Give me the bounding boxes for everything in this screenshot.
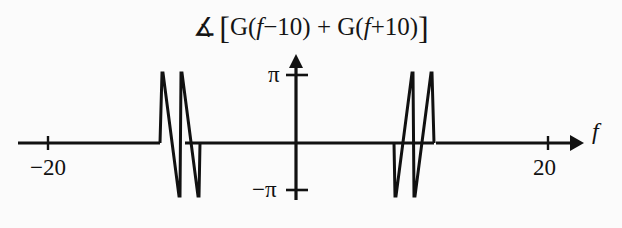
sawtooth-cluster-left [160, 73, 200, 196]
title-term-left: G( [230, 13, 256, 40]
x-axis-label: f [592, 119, 599, 143]
title-offset-left: −10) [263, 13, 310, 40]
title-offset-right: +10) [371, 13, 418, 40]
x-tick-label-20: 20 [533, 156, 556, 179]
sawtooth-cluster-right [394, 73, 434, 196]
x-axis [18, 135, 584, 151]
title-plus: + [311, 13, 338, 40]
title-term-right: G( [337, 13, 363, 40]
axis-tick-marks [48, 75, 548, 190]
y-tick-label-neg-pi: −π [252, 178, 277, 201]
title-var-right: f [364, 13, 371, 40]
angle-symbol-icon: ∡ [193, 13, 216, 42]
phase-spectrum-figure: ∡[G(f−10) + G(f+10)] −20 20 f π −π [0, 0, 622, 228]
plot-title: ∡[G(f−10) + G(f+10)] [0, 12, 622, 44]
title-bracket-close: ] [418, 10, 429, 46]
title-bracket-open: [ [219, 10, 230, 46]
y-tick-label-pi: π [268, 63, 280, 86]
x-tick-label-neg-20: −20 [30, 156, 66, 179]
